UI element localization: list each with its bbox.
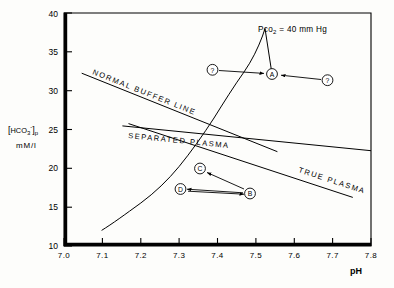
x-tick-label: 7.6	[288, 251, 300, 260]
x-tick-label: 7.5	[250, 251, 262, 260]
arrow-b-to-c	[207, 173, 244, 190]
y-tick-label: 30	[49, 86, 59, 96]
y-title-p-subscript: p	[35, 130, 39, 136]
arrow-q2-to-a	[281, 75, 321, 79]
marker-a-label: A	[270, 71, 275, 78]
x-tick-label: 7.2	[135, 251, 147, 260]
normal-buffer-line-label: NORMAL BUFFER LINE	[91, 68, 197, 117]
marker-d-label: D	[178, 186, 183, 193]
x-tick-label: 7.7	[326, 251, 338, 260]
marker-b[interactable]: B	[245, 188, 256, 199]
svg-text:[HCO3-]p: [HCO3-]p	[8, 124, 39, 136]
x-tick-label: 7.0	[58, 251, 70, 260]
y-title-hco: HCO	[11, 126, 28, 135]
y-tick-label: 20	[49, 163, 59, 173]
y-tick-label: 10	[49, 241, 59, 251]
x-axis-title: pH	[350, 266, 362, 276]
chart-svg: 10 15 20 25 30 35 40 7.0 7.1 7.2 7.3 7.4…	[0, 0, 394, 288]
y-title-subscript: 3	[27, 130, 31, 136]
arrow-q1-to-a	[219, 71, 264, 74]
marker-b-label: B	[248, 190, 253, 197]
pco2-leader-line	[265, 29, 272, 75]
x-tick-label: 7.4	[211, 251, 223, 260]
pco2-annotation: Pco2 = 40 mm Hg	[258, 25, 327, 35]
true-plasma-label: TRUE PLASMA	[297, 165, 366, 195]
marker-d[interactable]: D	[175, 184, 186, 195]
marker-c[interactable]: C	[195, 163, 206, 174]
y-tick-label: 40	[49, 9, 59, 19]
pco2-curve	[102, 29, 265, 231]
x-axis-ticks: 7.0 7.1 7.2 7.3 7.4 7.5 7.6 7.7 7.8	[58, 238, 377, 260]
y-axis-title: [HCO3-]p mM/l	[8, 124, 39, 150]
plot-frame	[64, 13, 371, 246]
marker-unknown-left-label: ?	[211, 67, 215, 74]
y-axis-units: mM/l	[16, 141, 37, 150]
marker-unknown-right[interactable]: ?	[322, 75, 333, 86]
separated-plasma-label: SEPARATED PLASMA	[128, 131, 230, 150]
x-tick-label: 7.1	[96, 251, 108, 260]
pco2-annotation-value: = 40 mm Hg	[277, 25, 328, 34]
marker-a[interactable]: A	[267, 69, 278, 80]
y-tick-label: 35	[49, 47, 59, 57]
arrow-group-lower	[187, 173, 244, 195]
marker-unknown-right-label: ?	[326, 77, 330, 84]
marker-unknown-left[interactable]: ?	[207, 64, 218, 75]
pco2-annotation-prefix: Pco	[258, 25, 273, 34]
acid-base-diagram-figure: 10 15 20 25 30 35 40 7.0 7.1 7.2 7.3 7.4…	[0, 0, 394, 288]
marker-c-label: C	[198, 165, 203, 172]
y-tick-label: 25	[49, 125, 59, 135]
x-tick-label: 7.3	[173, 251, 185, 260]
x-tick-label: 7.8	[365, 251, 377, 260]
y-tick-label: 15	[49, 202, 59, 212]
y-axis-ticks: 10 15 20 25 30 35 40	[49, 9, 72, 252]
